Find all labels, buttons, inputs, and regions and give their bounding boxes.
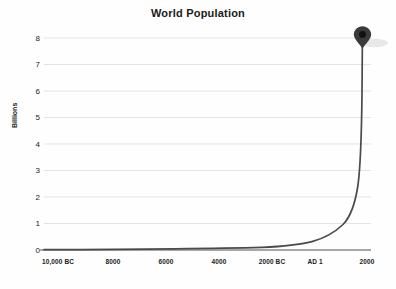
gridlines <box>44 38 371 224</box>
x-tick-label: AD 1 <box>307 258 322 265</box>
x-tick-label: 6000 <box>159 258 174 265</box>
map-pin-inner-dot <box>359 31 366 38</box>
x-tick-label: 2000 <box>360 258 375 265</box>
plot-area <box>0 0 396 289</box>
x-tick-label: 4000 <box>212 258 227 265</box>
x-tick-label: 8000 <box>106 258 121 265</box>
current-population-marker[interactable] <box>352 24 392 54</box>
x-tick-label: 2000 BC <box>259 258 285 265</box>
x-tick-label: 10,000 BC <box>42 258 74 265</box>
population-curve <box>44 41 362 250</box>
world-population-chart: World Population Billions 8 7 6 5 4 3 2 … <box>0 0 396 289</box>
